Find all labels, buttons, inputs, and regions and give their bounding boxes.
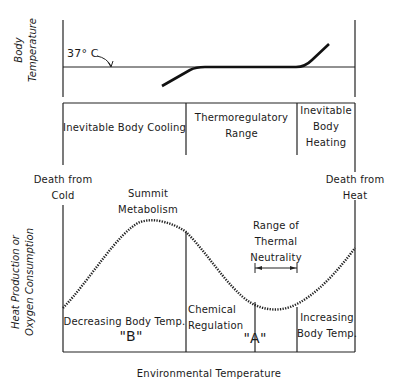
- top-y-axis-label-line2: Temperature: [26, 10, 40, 90]
- increasing-line1: Increasing: [297, 310, 357, 326]
- summit-line2: Metabolism: [108, 202, 188, 218]
- zone-heating-line1: Inevitable: [297, 103, 355, 119]
- bottom-y-axis-label: Heat Production or Oxygen Consumption: [9, 222, 37, 342]
- death-cold-line2: Cold: [28, 188, 98, 204]
- zone-heating-label: Inevitable Body Heating: [297, 103, 355, 151]
- increasing-line2: Body Temp.: [297, 326, 357, 342]
- thermal-neutrality-label: Range of Thermal Neutrality: [241, 218, 311, 266]
- zone-thermoregulatory-line1: Thermoregulatory: [186, 110, 297, 126]
- top-y-axis-label-line1: Body: [12, 10, 26, 90]
- zone-thermoregulatory-label: Thermoregulatory Range: [186, 110, 297, 142]
- death-from-cold-label: Death from Cold: [28, 172, 98, 204]
- zone-cooling-label: Inevitable Body Cooling: [63, 120, 186, 136]
- chemical-line1: Chemical: [188, 302, 243, 318]
- summit-line1: Summit: [108, 186, 188, 202]
- zone-heating-line2: Body: [297, 119, 355, 135]
- marker-a-label: "A": [235, 330, 275, 346]
- bottom-y-axis-label-line2: Oxygen Consumption: [23, 222, 37, 342]
- metabolism-curve: [63, 220, 355, 309]
- neutrality-line3: Neutrality: [241, 250, 311, 266]
- reference-37c-label: 37° C: [67, 46, 99, 62]
- summit-metabolism-label: Summit Metabolism: [108, 186, 188, 218]
- x-axis-label: Environmental Temperature: [63, 366, 355, 382]
- arrowhead-right-icon: [290, 266, 296, 270]
- neutrality-line1: Range of: [241, 218, 311, 234]
- neutrality-line2: Thermal: [241, 234, 311, 250]
- death-heat-line2: Heat: [320, 188, 390, 204]
- death-from-heat-label: Death from Heat: [320, 172, 390, 204]
- death-heat-line1: Death from: [320, 172, 390, 188]
- reference-arrow: [97, 56, 111, 66]
- marker-b-label: "B": [63, 328, 199, 344]
- zone-thermoregulatory-line2: Range: [186, 126, 297, 142]
- arrowhead-left-icon: [256, 266, 262, 270]
- top-y-axis-label: Body Temperature: [12, 10, 40, 90]
- body-temperature-curve: [162, 44, 329, 86]
- bottom-y-axis-label-line1: Heat Production or: [9, 222, 23, 342]
- zone-heating-line3: Heating: [297, 135, 355, 151]
- death-cold-line1: Death from: [28, 172, 98, 188]
- increasing-body-temp-label: Increasing Body Temp.: [297, 310, 357, 342]
